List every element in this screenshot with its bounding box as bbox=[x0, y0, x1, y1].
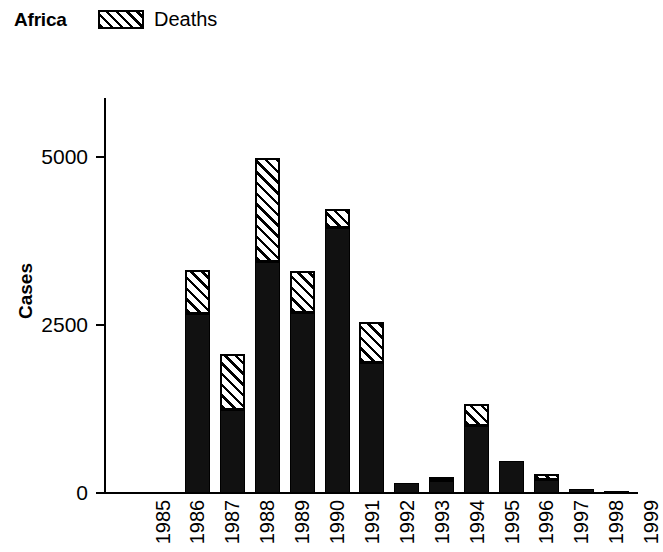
bar-segment-deaths bbox=[534, 474, 559, 481]
bar-segment-cases bbox=[464, 426, 489, 493]
x-tick-label-text: 1987 bbox=[222, 500, 242, 545]
x-tick-label-1998: 1998 bbox=[603, 494, 629, 552]
bar-segment-deaths bbox=[255, 158, 280, 261]
bar-1994 bbox=[464, 404, 489, 493]
x-tick-label-1997: 1997 bbox=[568, 494, 594, 552]
bar-segment-cases bbox=[394, 483, 419, 493]
bar-1991 bbox=[359, 322, 384, 493]
bar-segment-cases bbox=[220, 410, 245, 493]
bar-segment-deaths bbox=[359, 322, 384, 363]
bar-segment-cases bbox=[569, 489, 594, 493]
bar-1998 bbox=[604, 491, 629, 493]
x-tick-label-1992: 1992 bbox=[394, 494, 420, 552]
bar-1988 bbox=[255, 158, 280, 493]
x-tick-label-text: 1997 bbox=[571, 500, 591, 545]
bar-segment-deaths bbox=[464, 404, 489, 426]
bar-segment-deaths bbox=[185, 270, 210, 314]
x-tick-label-1995: 1995 bbox=[499, 494, 525, 552]
bar-1987 bbox=[220, 354, 245, 493]
x-tick-label-text: 1995 bbox=[502, 500, 522, 545]
bar-segment-cases bbox=[290, 313, 315, 493]
bar-1996 bbox=[534, 474, 559, 493]
x-tick-label-text: 1993 bbox=[432, 500, 452, 545]
x-tick-label-1996: 1996 bbox=[533, 494, 559, 552]
bar-1997 bbox=[569, 489, 594, 493]
x-tick-label-text: 1989 bbox=[292, 500, 312, 545]
x-tick-label-text: 1992 bbox=[397, 500, 417, 545]
x-tick-label-1991: 1991 bbox=[359, 494, 385, 552]
bar-1989 bbox=[290, 271, 315, 493]
x-tick-group: 1985198619871988198919901991199219931994… bbox=[0, 494, 646, 552]
bar-segment-cases bbox=[604, 491, 629, 493]
bar-segment-cases bbox=[359, 363, 384, 493]
bar-segment-cases bbox=[185, 314, 210, 493]
x-tick-label-1989: 1989 bbox=[289, 494, 315, 552]
x-tick-label-1999: 1999 bbox=[638, 494, 663, 552]
x-tick-label-1985: 1985 bbox=[150, 494, 176, 552]
x-tick-label-text: 1996 bbox=[536, 500, 556, 545]
x-tick-label-text: 1999 bbox=[641, 500, 661, 545]
bar-segment-cases bbox=[499, 461, 524, 493]
x-tick-label-text: 1994 bbox=[467, 500, 487, 545]
x-tick-label-1986: 1986 bbox=[184, 494, 210, 552]
bar-segment-cases bbox=[255, 262, 280, 493]
x-tick-label-text: 1985 bbox=[153, 500, 173, 545]
x-tick-label-text: 1991 bbox=[362, 500, 382, 545]
x-tick-label-text: 1986 bbox=[187, 500, 207, 545]
x-tick-label-1988: 1988 bbox=[254, 494, 280, 552]
x-tick-label-text: 1998 bbox=[606, 500, 626, 545]
bar-1986 bbox=[185, 270, 210, 493]
bar-segment-deaths bbox=[290, 271, 315, 313]
bar-segment-deaths bbox=[325, 209, 350, 228]
bar-segment-cases bbox=[325, 228, 350, 493]
bar-1995 bbox=[499, 461, 524, 493]
x-tick-label-1987: 1987 bbox=[219, 494, 245, 552]
x-tick-label-1994: 1994 bbox=[464, 494, 490, 552]
bar-segment-deaths bbox=[220, 354, 245, 410]
x-tick-label-1990: 1990 bbox=[324, 494, 350, 552]
bar-segment-cases bbox=[429, 481, 454, 493]
bar-1992 bbox=[394, 483, 419, 493]
x-tick-label-1993: 1993 bbox=[429, 494, 455, 552]
bar-segment-cases bbox=[534, 480, 559, 493]
x-tick-label-text: 1988 bbox=[257, 500, 277, 545]
x-tick-label-text: 1990 bbox=[327, 500, 347, 545]
bar-1993 bbox=[429, 477, 454, 493]
bar-1990 bbox=[325, 209, 350, 493]
